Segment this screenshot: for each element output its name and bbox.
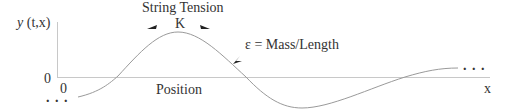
y-axis-label: y (t,x) [17, 16, 50, 30]
vibrating-string-diagram: y (t,x) String Tension K ε = Mass/Length… [0, 0, 519, 110]
x-axis-label: x [484, 82, 491, 96]
tension-arrow-left-icon [147, 25, 157, 29]
right-ellipsis: . . . [463, 59, 486, 73]
y-axis-label-args: (t,x) [27, 15, 51, 30]
tension-symbol: K [175, 17, 185, 31]
density-label: ε = Mass/Length [245, 38, 339, 52]
left-ellipsis: . . . [46, 91, 69, 105]
position-caption: Position [156, 83, 202, 97]
y-axis-label-var: y [17, 15, 23, 30]
y-origin-label: 0 [44, 72, 51, 86]
density-arrow-icon [233, 56, 242, 64]
string-tension-title: String Tension [142, 1, 224, 15]
diagram-canvas [0, 0, 519, 110]
tension-arrow-right-icon [200, 25, 210, 29]
